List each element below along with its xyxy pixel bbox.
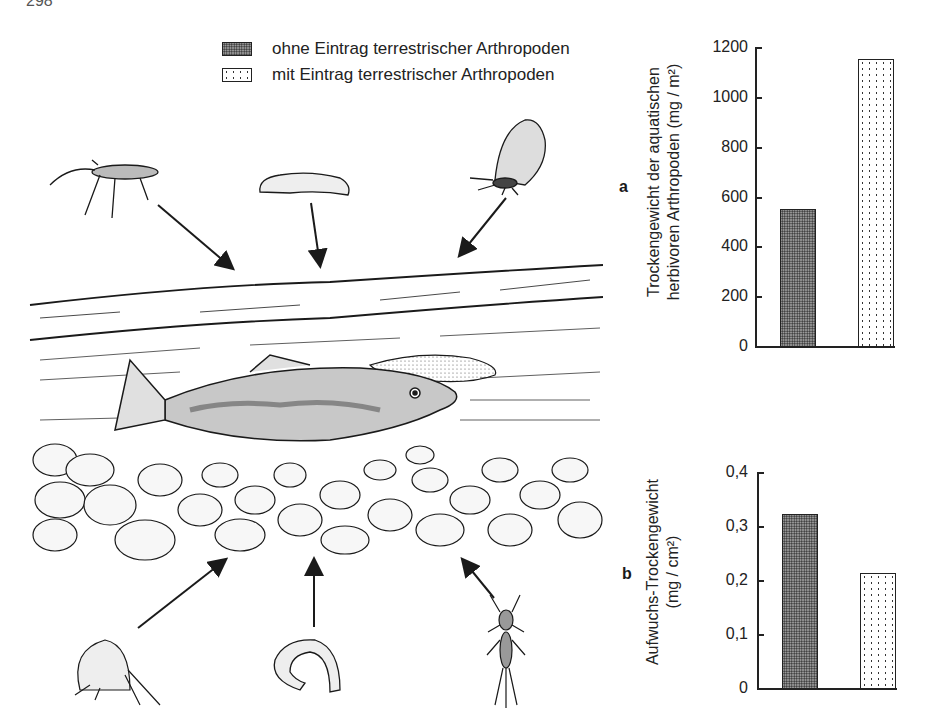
y-axis-label-a: Trockengewicht der aquatischen herbivore… <box>644 62 688 302</box>
chart-a: a Trockengewicht der aquatischen herbivo… <box>610 30 920 360</box>
legend-label: mit Eintrag terrestrischer Arthropoden <box>272 65 555 85</box>
legend-label: ohne Eintrag terrestrischer Arthropoden <box>272 39 570 59</box>
y-tick-label: 0,3 <box>698 517 748 535</box>
panel-label-b: b <box>622 565 632 583</box>
moth-icon <box>470 120 545 195</box>
arrow-icon <box>463 560 494 598</box>
bar-b-with <box>860 573 896 689</box>
y-tick-label: 0 <box>698 337 748 355</box>
y-tick-label: 0,2 <box>698 571 748 589</box>
legend: ohne Eintrag terrestrischer Arthropoden … <box>222 36 570 88</box>
legend-swatch-sparse <box>222 68 252 82</box>
stream-illustration <box>20 100 620 720</box>
arrow-icon <box>158 205 232 268</box>
y-tick <box>755 197 762 199</box>
y-tick-label: 1000 <box>698 88 748 106</box>
bar-b-without <box>782 514 818 689</box>
y-tick <box>755 97 762 99</box>
amphipod-icon <box>75 640 160 705</box>
y-tick <box>755 47 762 49</box>
bug-icon <box>50 160 158 218</box>
y-tick-label: 0 <box>698 679 748 697</box>
y-axis-label-b: Aufwuchs-Trockengewicht (mg / cm²) <box>643 462 687 682</box>
y-tick <box>757 634 764 636</box>
gravel-bed <box>33 444 602 560</box>
y-tick <box>757 526 764 528</box>
larva-icon <box>274 640 340 692</box>
chart-b: b Aufwuchs-Trockengewicht (mg / cm²) 0,4… <box>610 455 920 715</box>
y-tick <box>755 147 762 149</box>
bar-a-without <box>780 209 816 347</box>
y-tick-label: 0,1 <box>698 625 748 643</box>
caterpillar-icon <box>260 173 349 195</box>
y-tick-label: 400 <box>698 237 748 255</box>
arrow-icon <box>460 198 506 255</box>
y-tick-label: 200 <box>698 287 748 305</box>
panel-label-a: a <box>619 178 628 196</box>
arrow-icon <box>311 203 320 265</box>
y-tick <box>755 246 762 248</box>
y-tick <box>755 296 762 298</box>
legend-item-with: mit Eintrag terrestrischer Arthropoden <box>222 62 570 88</box>
y-tick-label: 0,4 <box>698 463 748 481</box>
page-number: 298 <box>26 0 53 10</box>
legend-item-without: ohne Eintrag terrestrischer Arthropoden <box>222 36 570 62</box>
arrow-icon <box>138 560 225 628</box>
y-tick-label: 1200 <box>698 38 748 56</box>
y-tick <box>757 580 764 582</box>
legend-swatch-dense <box>222 42 252 56</box>
y-tick-label: 600 <box>698 188 748 206</box>
bar-a-with <box>858 59 894 347</box>
y-tick <box>757 472 764 474</box>
y-tick-label: 800 <box>698 138 748 156</box>
mayfly-nymph-icon <box>487 595 525 708</box>
